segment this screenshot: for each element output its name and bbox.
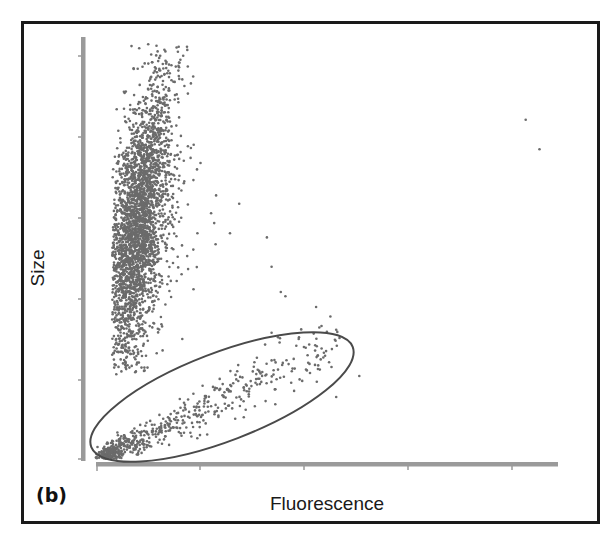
y-axis bbox=[81, 37, 86, 461]
x-axis bbox=[96, 462, 558, 467]
scatter-plot bbox=[0, 0, 611, 537]
y-axis-label: Size bbox=[27, 250, 49, 287]
x-axis-label: Fluorescence bbox=[270, 493, 384, 515]
y-axis-ticks bbox=[78, 56, 81, 459]
panel-label: (b) bbox=[36, 484, 67, 506]
x-axis-ticks bbox=[97, 466, 512, 471]
